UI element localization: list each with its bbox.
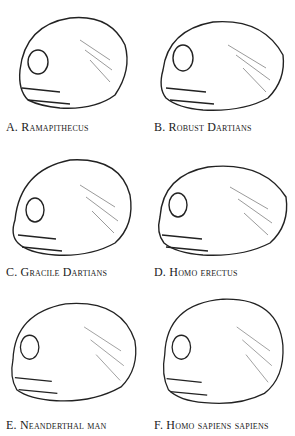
caption-b: B. Robust Dartians [154, 120, 252, 135]
caption-f: F. Homo sapiens sapiens [154, 418, 269, 433]
panel-d: D. Homo erectus [148, 145, 295, 290]
neanderthal-skull-illustration [0, 290, 147, 410]
caption-e: E. Neanderthal man [6, 418, 107, 433]
panel-c: C. Gracile Dartians [0, 145, 147, 290]
caption-a: A. Ramapithecus [6, 120, 89, 135]
caption-d: D. Homo erectus [154, 265, 238, 280]
panel-a: A. Ramapithecus [0, 0, 147, 145]
homo-erectus-skull-illustration [148, 145, 295, 265]
robust-dartians-skull-illustration [148, 0, 295, 120]
homo-sapiens-skull-illustration [148, 290, 295, 410]
panel-f: F. Homo sapiens sapiens [148, 290, 295, 435]
panel-b: B. Robust Dartians [148, 0, 295, 145]
ramapithecus-skull-illustration [0, 0, 147, 120]
caption-c: C. Gracile Dartians [6, 265, 107, 280]
gracile-dartians-skull-illustration [0, 145, 147, 265]
panel-e: E. Neanderthal man [0, 290, 147, 435]
